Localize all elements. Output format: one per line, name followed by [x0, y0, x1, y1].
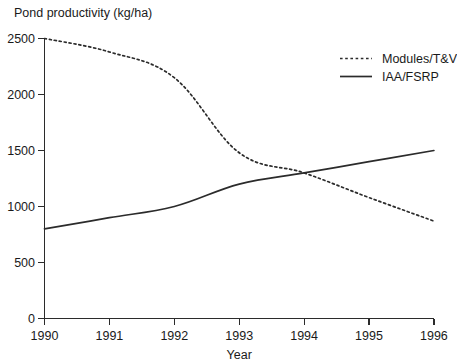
y-tick-label-2000: 2000	[7, 88, 35, 102]
y-axis-ticks	[38, 39, 45, 319]
x-tick-label-1995: 1995	[355, 329, 383, 343]
x-tick-label-1994: 1994	[290, 329, 318, 343]
x-axis-title: Year	[227, 348, 252, 362]
x-tick-label-1993: 1993	[225, 329, 253, 343]
y-tick-label-1500: 1500	[7, 144, 35, 158]
x-tick-label-1996: 1996	[420, 329, 448, 343]
y-tick-label-2500: 2500	[7, 32, 35, 46]
line-chart: Pond productivity (kg/ha) 2500 2000 1500…	[0, 0, 457, 363]
y-tick-label-0: 0	[28, 312, 35, 326]
y-axis-title: Pond productivity (kg/ha)	[14, 6, 152, 20]
legend-label-iaa-fsrp: IAA/FSRP	[382, 70, 439, 84]
x-tick-label-1992: 1992	[160, 329, 188, 343]
series-line-modules-tv	[45, 39, 434, 222]
x-axis-ticks	[45, 319, 434, 326]
series-line-iaa-fsrp	[45, 151, 434, 229]
x-tick-label-1991: 1991	[95, 329, 123, 343]
chart-container: Pond productivity (kg/ha) 2500 2000 1500…	[0, 0, 457, 363]
chart-legend: Modules/T&V IAA/FSRP	[340, 52, 457, 84]
y-tick-label-500: 500	[14, 256, 35, 270]
y-tick-label-1000: 1000	[7, 200, 35, 214]
legend-label-modules-tv: Modules/T&V	[382, 52, 457, 66]
x-tick-label-1990: 1990	[31, 329, 59, 343]
